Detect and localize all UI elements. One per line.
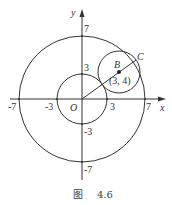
x-axis-label: x <box>159 102 165 113</box>
tick-x-7 <box>144 98 146 100</box>
x-tick-label: 7 <box>146 101 151 112</box>
origin-label: O <box>70 102 77 113</box>
tick-x-neg7 <box>18 98 20 100</box>
point-c-label: C <box>137 51 144 62</box>
x-tick-label: 3 <box>110 101 115 112</box>
point-b <box>117 70 121 74</box>
tick-x-3 <box>106 98 108 100</box>
x-tick-label: -3 <box>45 101 53 112</box>
figure-diagram: y x O -7 -3 3 7 7 3 -3 -7 B (3, 4) C 图 4… <box>0 0 172 205</box>
tick-x-neg3 <box>56 98 58 100</box>
tick-y-7 <box>81 35 83 37</box>
point-b-label: B <box>114 59 120 70</box>
caption-number: 4.6 <box>97 189 113 200</box>
y-tick-label: -3 <box>84 126 92 137</box>
point-b-coord-label: (3, 4) <box>109 75 131 87</box>
y-tick-label: 7 <box>84 23 89 34</box>
tick-y-neg3 <box>81 123 83 125</box>
x-axis-arrow-icon <box>158 97 166 102</box>
tick-y-neg7 <box>81 161 83 163</box>
y-tick-label: 3 <box>84 62 89 73</box>
caption-prefix: 图 <box>73 189 83 200</box>
y-axis-arrow-icon <box>80 9 85 17</box>
tick-y-3 <box>81 73 83 75</box>
y-tick-label: -7 <box>84 164 92 175</box>
y-axis-label: y <box>70 7 76 18</box>
x-tick-label: -7 <box>8 101 16 112</box>
